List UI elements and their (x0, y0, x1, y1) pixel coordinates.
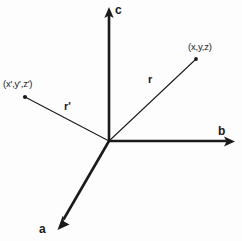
vector-label-r-prime: r' (64, 101, 71, 112)
axis-label-c: c (115, 4, 122, 16)
axis-c-group (104, 7, 113, 141)
vector-label-r: r (148, 74, 152, 85)
vector-diagram-figure: c b a r r' (x,y,z) (x',y',z') (0, 0, 242, 241)
point-label-xyz: (x,y,z) (188, 42, 212, 52)
vector-r-prime-endpoint-dot (23, 95, 27, 99)
axis-a-group (58, 141, 110, 230)
vector-r-endpoint-dot (194, 57, 198, 61)
vector-r-group (109, 57, 198, 141)
point-label-x-prime-y-prime-z-prime: (x',y',z') (3, 79, 32, 89)
axis-label-a: a (39, 223, 46, 235)
axis-a-line (64, 141, 110, 220)
axis-label-b: b (218, 125, 225, 137)
axes-and-vectors-svg (0, 0, 242, 241)
vector-r-line (109, 60, 195, 141)
axis-b-group (109, 137, 235, 147)
